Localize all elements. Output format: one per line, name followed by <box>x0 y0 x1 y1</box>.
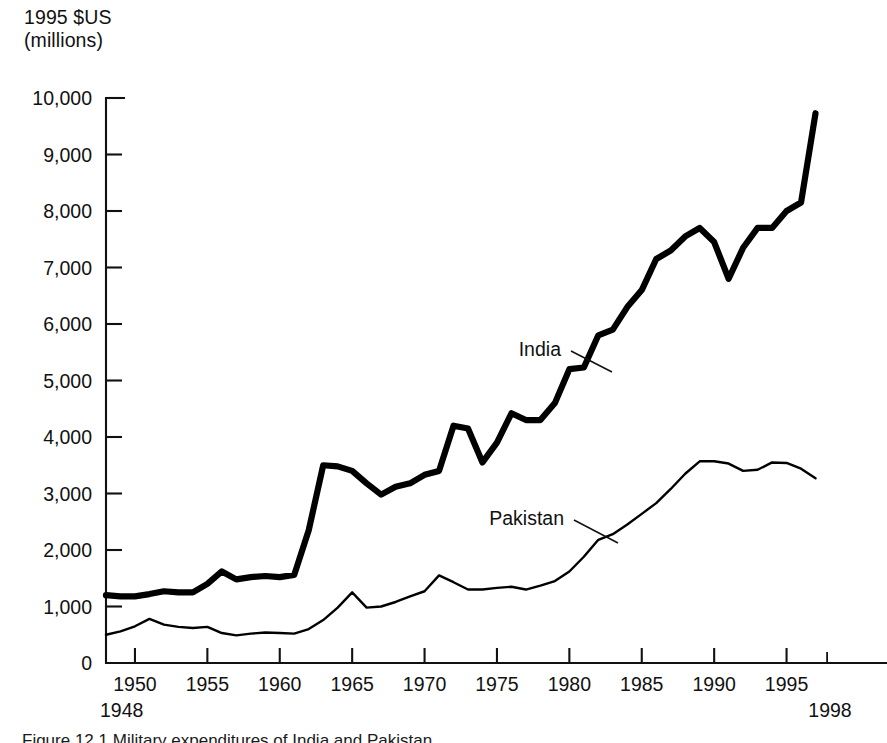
series-line-pakistan <box>106 461 816 635</box>
axis-endpoint-labels: 19481998 <box>100 699 852 721</box>
x-tick-label: 1995 <box>765 673 809 695</box>
y-tick-label: 1,000 <box>43 596 92 618</box>
series-label-india: India <box>519 338 561 360</box>
x-tick-label: 1950 <box>113 673 157 695</box>
x-axis-tick-labels: 1950195519601965197019751980198519901995 <box>113 673 808 695</box>
y-tick-label: 8,000 <box>43 200 92 222</box>
y-tick-label: 6,000 <box>43 313 92 335</box>
x-tick-label: 1965 <box>330 673 374 695</box>
x-axis-end-year: 1998 <box>808 699 851 721</box>
axis-frame <box>106 98 886 663</box>
leader-line-pakistan <box>574 520 618 543</box>
y-tick-label: 7,000 <box>43 257 92 279</box>
series-annotations: IndiaPakistan <box>489 338 618 543</box>
series-line-india <box>106 113 816 596</box>
axis-lines <box>106 98 886 663</box>
x-tick-label: 1990 <box>692 673 736 695</box>
y-tick-label: 0 <box>81 652 92 674</box>
y-tick-label: 10,000 <box>32 87 92 109</box>
y-tick-label: 2,000 <box>43 539 92 561</box>
line-chart-plot: 01,0002,0003,0004,0005,0006,0007,0008,00… <box>0 0 887 743</box>
figure-caption: Figure 12.1 Military expenditures of Ind… <box>22 731 642 743</box>
chart-figure: 1995 $US (millions) 01,0002,0003,0004,00… <box>0 0 887 743</box>
series-paths <box>106 113 816 635</box>
x-tick-label: 1985 <box>620 673 664 695</box>
y-tick-label: 5,000 <box>43 370 92 392</box>
y-tick-label: 3,000 <box>43 483 92 505</box>
x-tick-label: 1955 <box>186 673 230 695</box>
y-tick-label: 4,000 <box>43 426 92 448</box>
x-tick-label: 1960 <box>258 673 302 695</box>
x-axis-start-year: 1948 <box>100 699 143 721</box>
y-axis-tick-labels: 01,0002,0003,0004,0005,0006,0007,0008,00… <box>32 87 92 674</box>
x-tick-label: 1970 <box>403 673 447 695</box>
x-tick-label: 1980 <box>548 673 592 695</box>
series-label-pakistan: Pakistan <box>489 507 564 529</box>
y-tick-label: 9,000 <box>43 144 92 166</box>
x-tick-label: 1975 <box>475 673 519 695</box>
